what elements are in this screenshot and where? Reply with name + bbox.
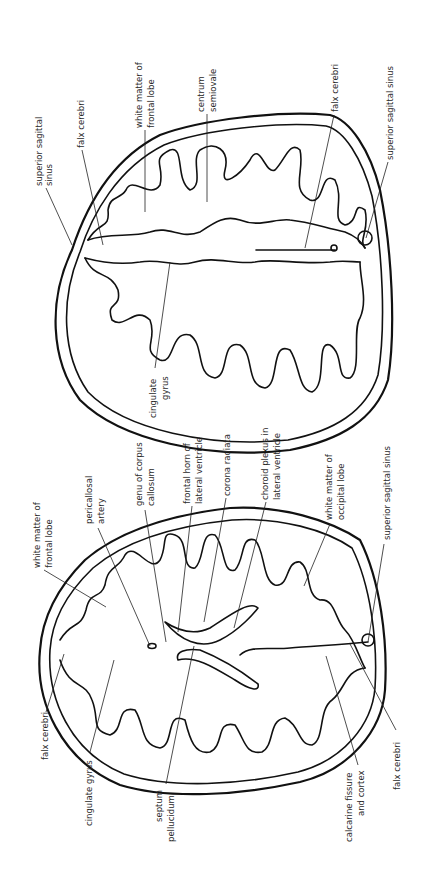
bottom-skull-inner (50, 520, 376, 784)
bottom-labels: white matter of frontal lobe pericallosa… (32, 428, 402, 842)
bottom-leader-septum (166, 646, 194, 784)
top-cortex-lower (85, 258, 364, 392)
bottom-label-corona: corona radiata (222, 434, 232, 496)
bottom-leader-genu (145, 510, 166, 642)
bottom-label-choroid-a: choroid plexus in (260, 428, 270, 500)
top-label-centrum-a: centrum (196, 76, 206, 112)
bottom-label-calcarine-b: and cortex (356, 770, 366, 816)
bottom-label-cingulate: cingulate gyrus (84, 760, 94, 826)
bottom-leader-pericallosal (98, 528, 150, 646)
top-cortex-upper (88, 146, 366, 248)
bottom-falx-posterior (240, 642, 368, 655)
bottom-label-genu-b: callosum (146, 468, 156, 506)
top-label-sss-1b: sinus (44, 163, 54, 186)
top-label-falx-2: falx cerebri (330, 64, 340, 112)
top-leader-sss-1 (46, 188, 72, 245)
bottom-label-wm-frontal-a: white matter of (32, 501, 42, 568)
top-section (56, 114, 393, 453)
top-skull-outer (56, 114, 393, 453)
bottom-label-septum-a: septum (154, 790, 164, 822)
top-label-falx-1: falx cerebri (76, 100, 86, 148)
bottom-label-falx-2: falx cerebri (392, 742, 402, 790)
bottom-label-pericallosal-b: artery (96, 498, 106, 524)
bottom-leader-corona (204, 498, 226, 622)
bottom-leader-frontal-horn (178, 506, 192, 632)
bottom-label-falx-1: falx cerebri (40, 712, 50, 760)
top-midline-lower (85, 258, 360, 264)
bottom-leader-wm-occipital (304, 524, 330, 586)
top-leader-cingulate (155, 262, 170, 368)
bottom-label-wm-occipital-b: occipital lobe (336, 464, 346, 520)
bottom-label-wm-occipital-a: white matter of (324, 453, 334, 520)
top-label-wm-frontal-b: frontal lobe (146, 79, 156, 128)
bottom-label-genu-a: genu of corpus (134, 442, 144, 506)
bottom-label-calcarine-a: calcarine fissure (344, 773, 354, 842)
bottom-label-frontal-horn-b: lateral ventricle (194, 437, 204, 504)
top-midline-upper (88, 218, 365, 248)
bottom-label-septum-b: pellucidum (166, 795, 176, 842)
bottom-leader-falx-2 (350, 644, 396, 730)
bottom-label-sss: superior sagittal sinus (382, 445, 392, 540)
bottom-section (39, 508, 385, 795)
bottom-label-wm-frontal-b: frontal lobe (44, 519, 54, 568)
brain-axial-sections-diagram: superior sagittal sinus falx cerebri whi… (0, 0, 421, 888)
bottom-cortex-upper (60, 534, 365, 668)
bottom-label-frontal-horn-a: frontal horn of (182, 442, 192, 504)
bottom-leader-sss (368, 544, 384, 642)
bottom-label-choroid-b: lateral ventricle (272, 433, 282, 500)
top-label-sss-2: superior sagittal sinus (385, 65, 395, 160)
bottom-cortex-lower (60, 660, 365, 752)
top-label-centrum-b: semiovale (208, 69, 218, 112)
top-label-cingulate-b: gyrus (160, 376, 170, 400)
bottom-leader-falx-1 (46, 654, 64, 712)
top-label-sss-1: superior sagittal (34, 117, 44, 186)
top-label-wm-frontal-a: white matter of (134, 61, 144, 128)
bottom-label-pericallosal-a: pericallosal (84, 476, 94, 524)
top-label-cingulate-a: cingulate (148, 379, 158, 418)
top-leader-falx-1 (82, 150, 103, 245)
